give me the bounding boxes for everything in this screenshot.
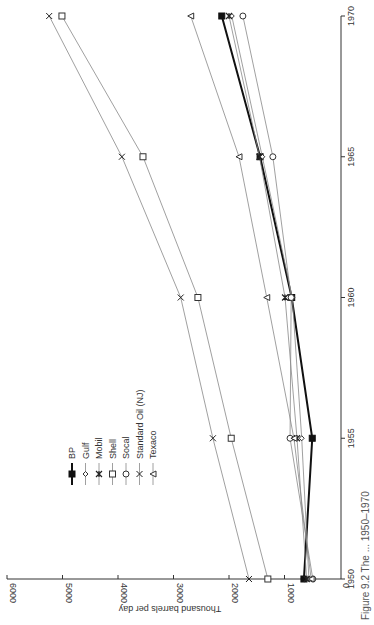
legend-item: Texaco (148, 430, 158, 485)
legend-item: Mobil (94, 437, 104, 485)
legend-label: Gulf (81, 442, 91, 459)
line-chart: 0100020003000400050006000 19501955196019… (0, 0, 374, 625)
series-shell (59, 13, 271, 582)
value-axis-title: Thousand barrels per day (118, 604, 221, 614)
value-tick-label: 5000 (64, 583, 74, 603)
legend-item: Standard Oil (NJ) (135, 389, 145, 485)
legend-item: Shell (108, 439, 118, 485)
year-tick-label: 1950 (346, 569, 356, 589)
legend-item: Gulf (81, 442, 91, 485)
year-axis: 19501955196019651970 (341, 6, 356, 589)
value-tick-label: 4000 (119, 583, 129, 603)
legend-label: BP (67, 447, 77, 459)
year-tick-label: 1960 (346, 287, 356, 307)
value-tick-label: 2000 (230, 583, 240, 603)
series-standard-oil-nj (46, 13, 252, 582)
value-tick-label: 3000 (175, 583, 185, 603)
figure-caption: Figure 9.2 The ... 1950–1970 (360, 491, 371, 620)
legend-label: Mobil (94, 437, 104, 459)
year-tick-label: 1970 (346, 6, 356, 26)
legend: BPGulfMobilShellSocalStandard Oil (NJ)Te… (67, 389, 158, 485)
legend-label: Shell (108, 439, 118, 459)
value-tick-label: 6000 (8, 583, 18, 603)
value-axis: 0100020003000400050006000 (7, 575, 351, 603)
legend-item: BP (67, 447, 77, 485)
legend-label: Socal (121, 436, 131, 459)
legend-label: Standard Oil (NJ) (135, 389, 145, 459)
legend-item: Socal (121, 436, 131, 485)
year-tick-label: 1965 (346, 147, 356, 167)
legend-label: Texaco (148, 430, 158, 459)
year-tick-label: 1955 (346, 428, 356, 448)
series-group (46, 13, 316, 582)
value-tick-label: 1000 (286, 583, 296, 603)
